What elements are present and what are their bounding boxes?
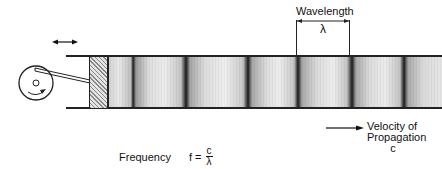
frequency-fraction: c λ [206, 146, 213, 167]
air-column [107, 57, 442, 107]
velocity-symbol: c [367, 143, 433, 154]
frequency-lhs: f = [189, 151, 202, 163]
velocity-line2: Propagation [367, 132, 433, 143]
frequency-denominator: λ [207, 157, 212, 167]
piston-motion-arrow-icon [52, 38, 78, 46]
crank-mechanism [0, 56, 110, 112]
frequency-formula: Frequency f = c λ [119, 146, 213, 167]
tube-bottom-wall [66, 107, 442, 109]
propagation-arrow-icon [326, 125, 364, 131]
wavelength-label: Wavelength [296, 5, 350, 17]
velocity-label: Velocity of Propagation c [367, 121, 433, 154]
frequency-label: Frequency [119, 151, 171, 163]
wavelength-symbol: λ [296, 23, 350, 35]
